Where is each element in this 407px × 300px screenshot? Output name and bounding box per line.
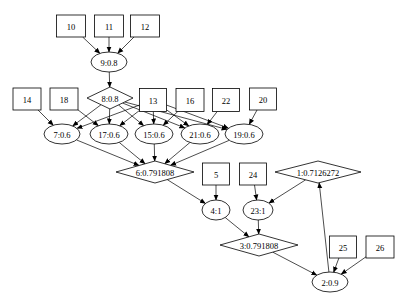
node-label: 9:0.8 — [100, 58, 117, 68]
node-label: 12 — [141, 22, 150, 32]
edge-1-to-23 — [269, 180, 306, 203]
edge-3-to-2 — [273, 252, 317, 275]
node-label: 20 — [259, 95, 268, 105]
node-label: 17:0.6 — [98, 130, 120, 140]
node-5: 5 — [203, 163, 230, 185]
node-17: 17:0.6 — [90, 124, 128, 144]
node-20: 20 — [250, 88, 277, 110]
node-7: 7:0.6 — [44, 124, 80, 144]
edge-21-to-6 — [165, 142, 190, 163]
node-label: 22 — [222, 96, 231, 106]
node-9: 9:0.8 — [91, 52, 127, 72]
node-label: 25 — [339, 243, 348, 253]
edge-2-to-1 — [319, 183, 329, 272]
node-label: 21:0.6 — [189, 130, 211, 140]
node-19: 19:0.6 — [225, 124, 263, 144]
node-13: 13 — [140, 89, 167, 112]
edge-14-to-7 — [38, 110, 53, 125]
node-24: 24 — [240, 163, 267, 185]
node-1: 1:0.7126272 — [275, 161, 361, 183]
node-label: 23:1 — [250, 206, 265, 216]
node-15: 15:0.6 — [135, 124, 173, 144]
node-14: 14 — [13, 88, 41, 110]
node-label: 14 — [23, 95, 32, 105]
node-26: 26 — [366, 236, 394, 258]
node-label: 13 — [149, 96, 158, 106]
edge-22-to-21 — [207, 112, 217, 125]
node-16: 16 — [176, 89, 204, 112]
node-label: 4:1 — [211, 206, 222, 216]
node-6: 6:0.791808 — [116, 161, 194, 183]
node-label: 6:0.791808 — [136, 168, 175, 178]
edge-26-to-2 — [341, 257, 366, 274]
node-label: 10 — [67, 22, 76, 32]
node-label: 15:0.6 — [143, 130, 165, 140]
edge-4-to-3 — [225, 218, 249, 237]
node-label: 24 — [249, 170, 258, 180]
node-label: 11 — [105, 22, 113, 32]
node-8: 8:0.8 — [87, 87, 133, 109]
node-25: 25 — [330, 236, 357, 258]
edge-16-to-15 — [163, 112, 178, 126]
node-12: 12 — [131, 15, 160, 37]
graph-canvas: 1011129:0.814188:0.8131622207:0.617:0.61… — [0, 0, 407, 300]
edge-6-to-4 — [167, 180, 205, 204]
node-label: 3:0.791808 — [240, 241, 279, 251]
node-21: 21:0.6 — [181, 124, 219, 144]
node-label: 19:0.6 — [233, 130, 255, 140]
edge-25-to-2 — [334, 258, 339, 272]
edge-13-to-17 — [120, 110, 140, 125]
node-label: 8:0.8 — [101, 94, 118, 104]
node-label: 16 — [186, 96, 195, 106]
node-11: 11 — [95, 15, 124, 37]
edge-18-to-17 — [78, 110, 98, 126]
node-2: 2:0.9 — [312, 272, 348, 292]
node-22: 22 — [213, 89, 240, 112]
node-label: 26 — [376, 243, 385, 253]
edge-20-to-19 — [249, 110, 257, 124]
node-23: 23:1 — [243, 200, 273, 220]
edge-10-to-9 — [83, 37, 100, 53]
edge-24-to-23 — [255, 185, 257, 200]
edges-layer — [38, 37, 366, 275]
edge-12-to-9 — [118, 37, 134, 53]
node-label: 1:0.7126272 — [297, 168, 340, 178]
node-10: 10 — [57, 15, 86, 37]
node-18: 18 — [50, 88, 78, 110]
node-label: 18 — [60, 95, 69, 105]
edge-17-to-6 — [119, 142, 145, 163]
node-label: 5 — [214, 170, 218, 180]
node-label: 7:0.6 — [53, 130, 70, 140]
node-3: 3:0.791808 — [220, 234, 298, 256]
node-4: 4:1 — [202, 200, 230, 220]
node-label: 2:0.9 — [321, 278, 338, 288]
nodes-layer: 1011129:0.814188:0.8131622207:0.617:0.61… — [13, 15, 394, 292]
